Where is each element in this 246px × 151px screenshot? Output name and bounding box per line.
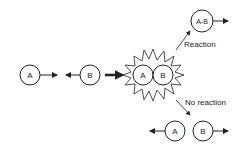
molecule-a-collision: A [133, 65, 153, 85]
molecule-a-separated: A [165, 121, 185, 141]
molecule-a-separated-label: A [172, 127, 178, 136]
no-reaction-label: No reaction [185, 98, 226, 107]
molecule-product-ab: A-B [191, 10, 213, 32]
molecule-a-collision-label: A [140, 71, 146, 80]
molecule-b-collision: B [153, 65, 173, 85]
molecule-b-initial: B [80, 65, 100, 85]
product-label: A-B [196, 18, 208, 25]
molecule-a-label: A [27, 71, 33, 80]
molecule-b-collision-label: B [160, 71, 165, 80]
molecule-a-initial: A [20, 65, 40, 85]
molecule-b-separated-label: B [200, 127, 205, 136]
reaction-label: Reaction [184, 40, 216, 49]
molecule-b-label: B [87, 71, 92, 80]
collision-diagram: A B A B Reaction A-B No reaction A B [0, 0, 246, 151]
molecule-b-separated: B [193, 121, 213, 141]
